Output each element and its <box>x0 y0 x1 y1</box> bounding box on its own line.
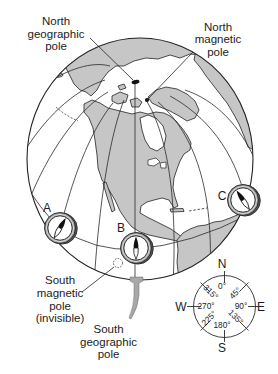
label-line: South <box>45 274 75 286</box>
label-line: North <box>204 21 232 33</box>
magnetic-poles-diagram: A B C North geographic pole North magnet… <box>0 0 278 374</box>
rose-degree-90: 90° <box>235 301 248 311</box>
compass-b-label: B <box>117 221 125 235</box>
compass-rose: N E S W 0° 45° 90° 135° 180° 225° 270° 3… <box>175 257 265 355</box>
south-magnetic-pole-label: South magnetic pole (invisible) <box>36 274 85 324</box>
label-line: pole <box>45 40 67 52</box>
rose-degree-180: 180° <box>213 320 230 330</box>
label-line: North <box>42 15 70 27</box>
compass-c-label: C <box>218 189 227 203</box>
rose-south-label: S <box>218 341 226 355</box>
label-line: geographic <box>80 336 137 348</box>
cuba-island <box>170 209 184 213</box>
diagram-canvas: A B C North geographic pole North magnet… <box>0 0 278 374</box>
label-line: pole <box>49 300 71 312</box>
south-geographic-pole-post <box>129 277 143 319</box>
compass-b <box>121 233 154 265</box>
label-line: pole <box>98 348 120 360</box>
north-geographic-pole-label: North geographic pole <box>28 15 85 52</box>
rose-west-label: W <box>175 300 187 314</box>
label-line: magnetic <box>37 287 84 299</box>
label-line: magnetic <box>195 33 242 45</box>
rose-north-label: N <box>218 257 227 271</box>
label-line: (invisible) <box>36 312 85 324</box>
label-line: pole <box>207 46 229 58</box>
south-geographic-pole-label: South geographic pole <box>80 323 137 360</box>
north-magnetic-pole-label: North magnetic pole <box>195 21 242 58</box>
compass-a-label: A <box>43 201 51 215</box>
compass-c <box>228 185 261 217</box>
label-line: South <box>93 323 123 335</box>
rose-degree-270: 270° <box>197 301 214 311</box>
rose-degree-0: 0° <box>218 281 226 291</box>
rose-east-label: E <box>257 300 265 314</box>
label-line: geographic <box>28 28 85 40</box>
compass-a <box>45 213 78 245</box>
